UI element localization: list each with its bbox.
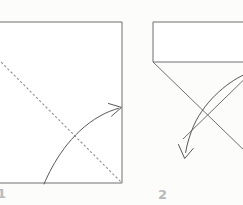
step-number-2: 2: [158, 188, 167, 201]
panel-2-left-slant-edge: [153, 62, 243, 156]
step-number-1: 1: [0, 187, 6, 200]
panel-2-paper-rectangle: [153, 22, 243, 62]
panel-2-right-slant-edge: [183, 62, 243, 139]
origami-diagram-canvas: 1 2: [0, 0, 243, 205]
origami-diagram-svg: [0, 0, 243, 205]
panel-1-group: [0, 22, 122, 184]
panel-1-paper-square: [0, 22, 122, 183]
panel-2-group: [153, 22, 243, 159]
